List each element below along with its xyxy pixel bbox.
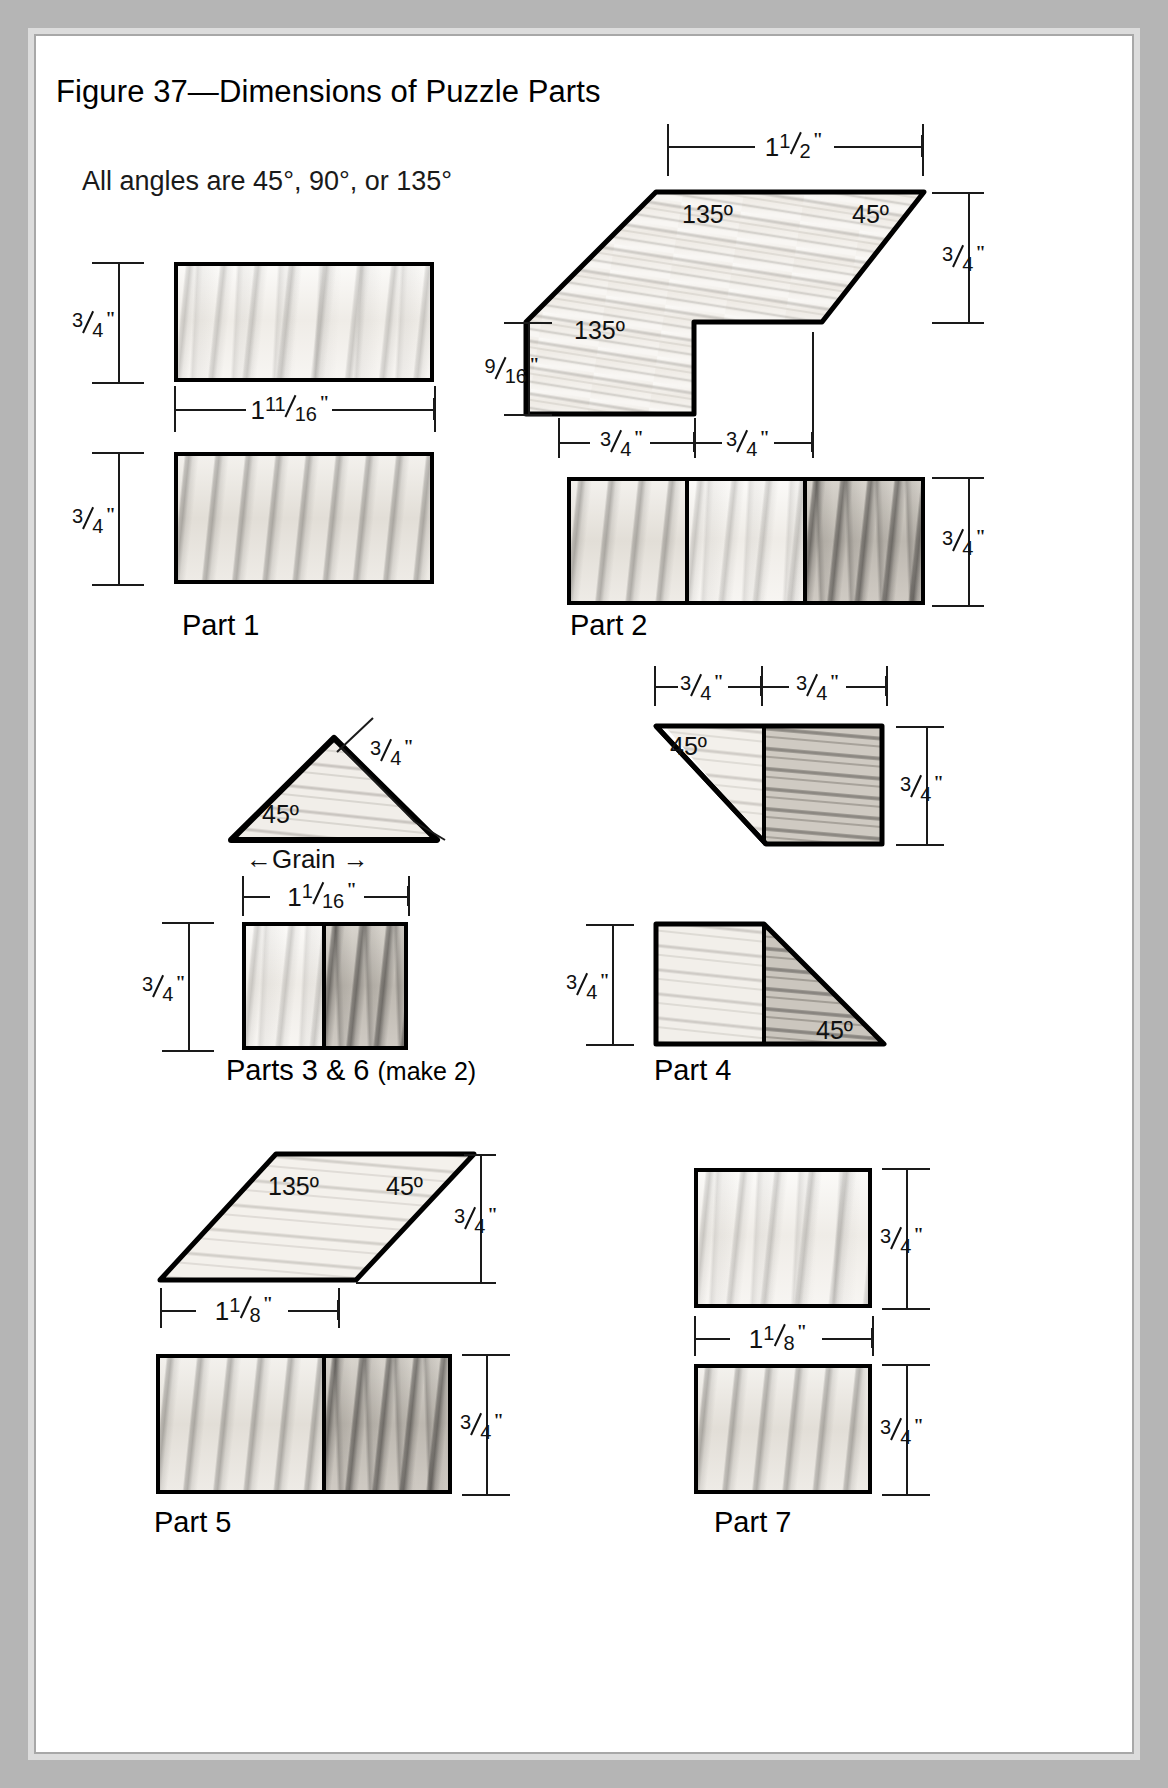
part2-width-label: 112" — [765, 132, 823, 158]
part36-width-line-a — [242, 896, 270, 898]
part2-strip-label: 34" — [942, 529, 986, 551]
part2-strip-ext-upper — [932, 477, 984, 479]
part36-caption-text: Parts 3 & 6 — [226, 1054, 378, 1086]
part36-width-label: 1116" — [287, 882, 356, 908]
grain-arrow-left-icon: ← — [246, 844, 272, 874]
part36-caption: Parts 3 & 6 (make 2) — [226, 1054, 476, 1087]
part5-right-label: 34" — [454, 1207, 498, 1229]
part4-top-label-left: 34" — [680, 674, 724, 696]
part2-strip-seg3 — [803, 477, 925, 605]
part2-right-ext-lower — [932, 322, 984, 324]
part4-lower-triangle — [634, 912, 924, 1062]
part1-caption-text: Part 1 — [182, 609, 259, 641]
part4-right-label: 34" — [900, 775, 944, 797]
part2-left-label: 916" — [485, 357, 540, 379]
part4-right-ext-upper — [896, 726, 944, 728]
part4-low-ext-lower — [586, 1044, 634, 1046]
part36-hyp-dimension — [319, 712, 489, 842]
part1-width-line-b — [332, 409, 434, 411]
part4-low-dimline — [612, 924, 614, 1044]
part7-caption: Part 7 — [714, 1506, 791, 1539]
part1-top-dimline — [118, 262, 120, 382]
part7-width-label: 118" — [749, 1324, 807, 1350]
part1-bot-dimline — [118, 452, 120, 584]
part7-bot-ext-lower — [882, 1494, 930, 1496]
part4-low-ext-upper — [586, 924, 634, 926]
part7-bottom-rectangle — [694, 1364, 872, 1494]
part2-right-label: 34" — [942, 245, 986, 267]
part5-parallelogram — [144, 1138, 504, 1318]
part1-width-line-a — [174, 409, 246, 411]
part4-top-tick-1 — [654, 676, 656, 696]
part7-bot-label: 34" — [880, 1418, 924, 1440]
part5-strip-seg1 — [156, 1354, 326, 1494]
part1-caption: Part 1 — [182, 609, 259, 642]
part4-caption-text: Part 4 — [654, 1054, 731, 1086]
part36-strip-label: 34" — [142, 975, 186, 997]
part2-angle-135-top: 135º — [682, 200, 733, 229]
part36-strip-seg2 — [322, 922, 408, 1050]
part1-top-ext-lower — [92, 382, 144, 384]
part7-top-ext-lower — [882, 1308, 930, 1310]
part1-width-label: 11116" — [250, 395, 329, 421]
part5-right-ext-lower — [356, 1282, 496, 1284]
part4-caption: Part 4 — [654, 1054, 731, 1087]
part4-top-label-right: 34" — [796, 674, 840, 696]
part2-bot-line-b1 — [694, 442, 722, 444]
part5-caption-text: Part 5 — [154, 1506, 231, 1538]
part7-caption-text: Part 7 — [714, 1506, 791, 1538]
part2-caption: Part 2 — [570, 609, 647, 642]
part2-bot-line-a1 — [558, 442, 590, 444]
part2-angle-45: 45º — [852, 200, 889, 229]
part2-right-ext-upper — [932, 192, 984, 194]
part5-width-label: 118" — [215, 1296, 273, 1322]
part4-top-tick-3 — [885, 676, 887, 696]
part2-bot-tick-2 — [693, 432, 695, 452]
part4-top-line-b2 — [846, 686, 886, 688]
part2-caption-text: Part 2 — [570, 609, 647, 641]
part2-bot-label-right: 34" — [726, 430, 770, 452]
part7-width-line-a — [694, 1338, 730, 1340]
part5-width-line-a — [160, 1310, 196, 1312]
part36-strip-ext-lower — [162, 1050, 214, 1052]
figure-title: Figure 37—Dimensions of Puzzle Parts — [56, 74, 601, 110]
part36-strip-dimline — [188, 922, 190, 1050]
part2-bot-line-b2 — [774, 442, 812, 444]
part5-strip-label: 34" — [460, 1413, 504, 1435]
part36-strip-seg1 — [242, 922, 326, 1050]
part4-angle-45-bottom: 45º — [816, 1016, 853, 1045]
part1-top-rectangle — [174, 262, 434, 382]
grain-direction-indicator: ←Grain → — [246, 844, 369, 875]
part2-width-line-b — [834, 146, 922, 148]
part1-width-tick-right — [433, 398, 435, 420]
part2-bot-tick-3 — [811, 432, 813, 452]
part36-width-line-b — [364, 896, 408, 898]
part2-width-tick-right — [921, 135, 923, 157]
part1-height-label: 34" — [72, 311, 116, 333]
part7-top-label: 34" — [880, 1227, 924, 1249]
figure-canvas: Figure 37—Dimensions of Puzzle Parts All… — [34, 34, 1134, 1754]
part7-width-line-b — [822, 1338, 872, 1340]
part1-bot-ext-lower — [92, 584, 144, 586]
part5-angle-135: 135º — [268, 1172, 319, 1201]
part2-angle-135-left: 135º — [574, 316, 625, 345]
part7-width-tick-left — [694, 1328, 696, 1348]
part36-angle-45: 45º — [262, 800, 299, 829]
angle-note: All angles are 45°, 90°, or 135° — [82, 166, 452, 197]
part2-bot-label-left: 34" — [600, 430, 644, 452]
part4-top-tick-2 — [760, 676, 762, 696]
part5-width-line-b — [288, 1310, 338, 1312]
part5-caption: Part 5 — [154, 1506, 231, 1539]
part5-strip-ext-lower — [462, 1494, 510, 1496]
part2-left-ext-lower — [504, 414, 552, 416]
part36-hyp-label: 34" — [370, 739, 414, 761]
part36-width-tick-left — [242, 886, 244, 906]
part4-top-line-a1 — [654, 686, 678, 688]
part5-strip-seg2 — [322, 1354, 452, 1494]
part36-width-tick-right — [407, 886, 409, 906]
part4-angle-45-top: 45º — [670, 732, 707, 761]
part5-width-tick-right — [337, 1300, 339, 1320]
part1-thickness-label: 34" — [72, 507, 116, 529]
part4-right-ext-lower — [896, 844, 944, 846]
part1-width-tick-left — [174, 398, 176, 420]
